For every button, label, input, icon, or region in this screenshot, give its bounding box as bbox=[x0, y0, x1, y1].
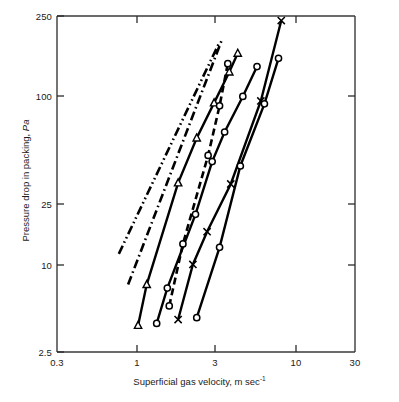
y-axis-title-text: Pressure drop in packing, bbox=[20, 131, 31, 241]
x-axis-title-exponent: -1 bbox=[260, 375, 266, 382]
marker-circle bbox=[192, 211, 198, 217]
marker-circle bbox=[237, 163, 243, 169]
series-line bbox=[119, 42, 220, 254]
y-axis-title-unit: Pa bbox=[20, 120, 31, 132]
data-series-series-7 bbox=[194, 55, 282, 321]
marker-circle bbox=[216, 103, 222, 109]
marker-circle bbox=[194, 315, 200, 321]
data-series-series-1 bbox=[119, 42, 220, 254]
marker-circle bbox=[166, 303, 172, 309]
series-line bbox=[197, 58, 279, 317]
data-series-series-2 bbox=[128, 39, 222, 284]
plot-canvas bbox=[0, 0, 399, 402]
marker-circle bbox=[275, 55, 281, 61]
marker-circle bbox=[254, 63, 260, 69]
marker-triangle bbox=[234, 49, 241, 56]
marker-circle bbox=[164, 285, 170, 291]
marker-triangle bbox=[174, 179, 181, 186]
series-line bbox=[128, 39, 222, 284]
xtick-label-30: 30 bbox=[343, 357, 367, 368]
x-axis-title-text: Superficial gas velocity, m sec bbox=[133, 376, 260, 387]
marker-circle bbox=[180, 241, 186, 247]
xtick-label-1: 1 bbox=[125, 357, 149, 368]
marker-triangle bbox=[143, 281, 150, 288]
y-axis-title: Pressure drop in packing, Pa bbox=[20, 71, 31, 291]
marker-circle bbox=[225, 61, 231, 67]
xtick-label-10: 10 bbox=[284, 357, 308, 368]
data-series-layer bbox=[119, 17, 285, 328]
marker-circle bbox=[154, 320, 160, 326]
marker-circle bbox=[205, 152, 211, 158]
marker-circle bbox=[240, 93, 246, 99]
x-axis-ticks bbox=[137, 16, 296, 352]
chart-figure: 250 100 25 10 2.5 0.3 1 3 10 30 Pressure… bbox=[0, 0, 399, 402]
xtick-label-3: 3 bbox=[203, 357, 227, 368]
marker-circle bbox=[222, 129, 228, 135]
marker-circle bbox=[209, 158, 215, 164]
marker-circle bbox=[261, 101, 267, 107]
xtick-label-0p3: 0.3 bbox=[45, 357, 69, 368]
x-axis-title: Superficial gas velocity, m sec-1 bbox=[0, 375, 399, 387]
ytick-label-250: 250 bbox=[14, 11, 52, 22]
marker-triangle bbox=[134, 321, 141, 328]
marker-circle bbox=[216, 244, 222, 250]
